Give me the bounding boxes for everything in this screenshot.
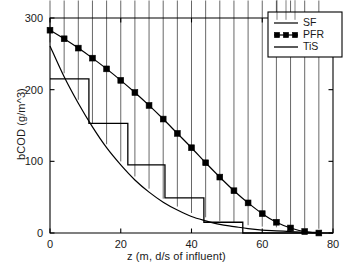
series-line-sf [50,46,319,232]
series-marker-pfr [61,36,67,42]
series-marker-pfr [231,188,237,194]
series-marker-pfr [47,27,53,33]
x-tick-label: 20 [115,238,127,250]
series-marker-pfr [132,90,138,96]
series-marker-pfr [174,130,180,136]
y-tick-label: 200 [0,84,43,96]
series-marker-pfr [189,145,195,151]
y-tick-label: 300 [0,12,43,24]
series-marker-pfr [146,103,152,109]
chart-plot-area [0,0,353,273]
y-tick-label: 100 [0,155,43,167]
x-tick-label: 60 [256,238,268,250]
legend-label-tis: TiS [303,40,318,52]
series-marker-pfr [90,55,96,61]
chart-figure: z (m, d/s of influent) bCOD (g/m^3) 0204… [0,0,353,273]
series-marker-pfr [259,211,265,217]
series-marker-pfr [217,174,223,180]
x-tick-label: 40 [185,238,197,250]
series-marker-pfr [104,66,110,72]
legend-label-pfr: PFR [303,28,324,40]
series-marker-pfr [288,225,294,231]
legend-label-sf: SF [303,16,316,28]
x-tick-label: 80 [327,238,339,250]
y-tick-label: 0 [0,227,43,239]
series-marker-pfr [203,160,209,166]
x-tick-label: 0 [47,238,53,250]
legend-marker-pfr [274,32,279,37]
legend-marker-pfr [292,32,297,37]
series-marker-pfr [160,116,166,122]
series-marker-pfr [274,219,280,225]
legend-marker-pfr [283,32,288,37]
series-marker-pfr [118,77,124,83]
series-marker-pfr [75,45,81,51]
series-marker-pfr [245,200,251,206]
y-axis-label: bCOD (g/m^3) [15,54,27,194]
x-axis-label: z (m, d/s of influent) [0,250,353,262]
